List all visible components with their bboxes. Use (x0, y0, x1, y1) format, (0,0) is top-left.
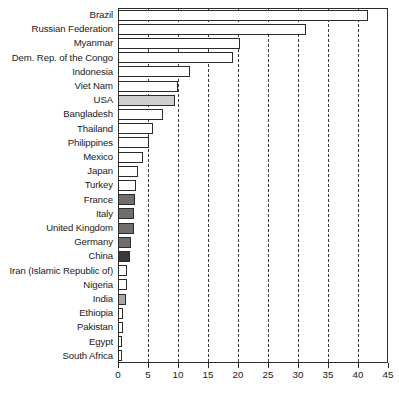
x-tick-5 (148, 363, 149, 368)
bar-row: Thailand (0, 122, 399, 137)
x-tick-label: 35 (323, 369, 334, 380)
bar-row: Russian Federation (0, 22, 399, 37)
x-tick-label: 30 (293, 369, 304, 380)
category-label: Dem. Rep. of the Congo (0, 51, 113, 66)
x-tick-30 (298, 363, 299, 368)
bar-myanmar (118, 38, 240, 49)
bar-south-africa (118, 350, 122, 361)
bar-mexico (118, 152, 143, 163)
category-label: Nigeria (0, 278, 113, 293)
bar-thailand (118, 123, 153, 134)
category-label: Indonesia (0, 65, 113, 80)
category-label: Italy (0, 207, 113, 222)
bar-row: Turkey (0, 178, 399, 193)
bar-row: Germany (0, 235, 399, 250)
x-tick-15 (208, 363, 209, 368)
bar-nigeria (118, 279, 127, 290)
bar-row: Egypt (0, 335, 399, 350)
x-tick-label: 45 (383, 369, 394, 380)
bar-row: Italy (0, 207, 399, 222)
bar-turkey (118, 180, 136, 191)
bar-france (118, 194, 135, 205)
category-label: Iran (Islamic Republic of) (0, 264, 113, 279)
category-label: Japan (0, 164, 113, 179)
bar-egypt (118, 336, 122, 347)
category-label: Turkey (0, 178, 113, 193)
bar-bangladesh (118, 109, 163, 120)
bar-united-kingdom (118, 223, 134, 234)
bar-row: Brazil (0, 8, 399, 23)
bar-row: Dem. Rep. of the Congo (0, 51, 399, 66)
category-label: Pakistan (0, 320, 113, 335)
bar-row: France (0, 193, 399, 208)
category-label: Philippines (0, 136, 113, 151)
x-tick-label: 5 (145, 369, 150, 380)
bar-row: USA (0, 93, 399, 108)
bar-row: China (0, 249, 399, 264)
x-tick-10 (178, 363, 179, 368)
bar-brazil (118, 10, 368, 21)
x-tick-25 (268, 363, 269, 368)
category-label: Myanmar (0, 36, 113, 51)
bar-row: Myanmar (0, 36, 399, 51)
x-tick-40 (358, 363, 359, 368)
bar-japan (118, 166, 138, 177)
bar-row: Nigeria (0, 278, 399, 293)
bar-iran-islamic-republic-of (118, 265, 127, 276)
bar-usa (118, 95, 175, 106)
x-tick-label: 0 (115, 369, 120, 380)
bar-china (118, 251, 130, 262)
bar-germany (118, 237, 131, 248)
category-label: USA (0, 93, 113, 108)
bar-row: Ethiopia (0, 306, 399, 321)
bar-row: United Kingdom (0, 221, 399, 236)
category-label: India (0, 292, 113, 307)
bar-ethiopia (118, 308, 123, 319)
category-label: South Africa (0, 349, 113, 364)
x-tick-45 (388, 363, 389, 368)
bar-italy (118, 208, 134, 219)
bar-row: Indonesia (0, 65, 399, 80)
category-label: Russian Federation (0, 22, 113, 37)
bar-row: Mexico (0, 150, 399, 165)
bar-pakistan (118, 322, 123, 333)
bar-viet-nam (118, 81, 178, 92)
bar-russian-federation (118, 24, 306, 35)
category-label: France (0, 193, 113, 208)
bar-row: India (0, 292, 399, 307)
category-label: Brazil (0, 8, 113, 23)
x-tick-label: 10 (173, 369, 184, 380)
bar-row: Philippines (0, 136, 399, 151)
bar-row: Japan (0, 164, 399, 179)
x-tick-20 (238, 363, 239, 368)
category-label: Viet Nam (0, 79, 113, 94)
bar-rows-layer: BrazilRussian FederationMyanmarDem. Rep.… (0, 8, 399, 363)
bar-row: South Africa (0, 349, 399, 364)
category-label: Egypt (0, 335, 113, 350)
bar-indonesia (118, 66, 190, 77)
x-tick-0 (118, 363, 119, 368)
bar-india (118, 294, 126, 305)
x-tick-label: 15 (203, 369, 214, 380)
x-tick-label: 25 (263, 369, 274, 380)
category-label: China (0, 249, 113, 264)
category-label: Ethiopia (0, 306, 113, 321)
x-tick-35 (328, 363, 329, 368)
category-label: Thailand (0, 122, 113, 137)
x-tick-label: 40 (353, 369, 364, 380)
x-axis: 051015202530354045 (0, 363, 399, 395)
category-label: Mexico (0, 150, 113, 165)
bar-row: Pakistan (0, 320, 399, 335)
category-label: United Kingdom (0, 221, 113, 236)
x-tick-label: 20 (233, 369, 244, 380)
horizontal-bar-chart: BrazilRussian FederationMyanmarDem. Rep.… (0, 0, 399, 395)
bar-row: Viet Nam (0, 79, 399, 94)
category-label: Bangladesh (0, 107, 113, 122)
bar-philippines (118, 137, 149, 148)
bar-row: Bangladesh (0, 107, 399, 122)
bar-row: Iran (Islamic Republic of) (0, 264, 399, 279)
bar-dem-rep-of-the-congo (118, 52, 233, 63)
category-label: Germany (0, 235, 113, 250)
